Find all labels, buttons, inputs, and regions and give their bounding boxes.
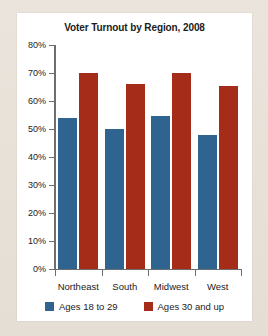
legend-swatch-icon — [144, 302, 153, 311]
y-axis-tick-label: 20% — [28, 208, 46, 218]
y-axis-tick — [49, 45, 55, 46]
y-axis-tick-label: 10% — [28, 236, 46, 246]
y-axis-tick — [49, 157, 55, 158]
legend-item-young[interactable]: Ages 18 to 29 — [45, 301, 118, 312]
x-axis-label-west: West — [207, 281, 228, 292]
y-axis-tick-label: 0% — [33, 264, 46, 274]
bar-northeast-young — [58, 118, 77, 269]
bar-south-young — [105, 129, 124, 269]
y-axis-tick — [49, 101, 55, 102]
legend-label: Ages 18 to 29 — [59, 301, 118, 312]
y-axis-tick — [49, 213, 55, 214]
x-axis-tick — [102, 269, 103, 276]
chart-legend: Ages 18 to 29Ages 30 and up — [17, 301, 252, 312]
bar-midwest-young — [151, 116, 170, 269]
legend-label: Ages 30 and up — [158, 301, 225, 312]
bar-west-young — [198, 135, 217, 269]
y-axis-tick — [49, 241, 55, 242]
y-axis-tick-label: 70% — [28, 68, 46, 78]
y-axis-tick-label: 30% — [28, 180, 46, 190]
bar-west-older — [219, 86, 238, 269]
y-axis-tick-label: 60% — [28, 96, 46, 106]
x-axis-label-south: South — [112, 281, 137, 292]
legend-item-older[interactable]: Ages 30 and up — [144, 301, 225, 312]
y-axis-tick-label: 50% — [28, 124, 46, 134]
y-axis-tick-label: 40% — [28, 152, 46, 162]
chart-page: Voter Turnout by Region, 2008 0%10%20%30… — [0, 0, 268, 336]
x-axis-label-northeast: Northeast — [58, 281, 99, 292]
x-axis-label-midwest: Midwest — [154, 281, 189, 292]
y-axis-tick — [49, 185, 55, 186]
plot-area: 0%10%20%30%40%50%60%70%80% — [55, 45, 241, 269]
bar-south-older — [126, 84, 145, 269]
chart-title: Voter Turnout by Region, 2008 — [17, 22, 252, 33]
x-axis-tick — [195, 269, 196, 276]
y-axis-tick — [49, 73, 55, 74]
x-axis-tick — [55, 269, 56, 276]
bar-midwest-older — [172, 73, 191, 269]
bar-northeast-older — [79, 73, 98, 269]
y-axis-tick-label: 80% — [28, 40, 46, 50]
legend-swatch-icon — [45, 302, 54, 311]
chart-card: Voter Turnout by Region, 2008 0%10%20%30… — [17, 13, 252, 321]
x-axis-labels: NortheastSouthMidwestWest — [47, 281, 247, 295]
x-axis-tick — [241, 269, 242, 276]
x-axis-tick — [148, 269, 149, 276]
y-axis-tick — [49, 129, 55, 130]
